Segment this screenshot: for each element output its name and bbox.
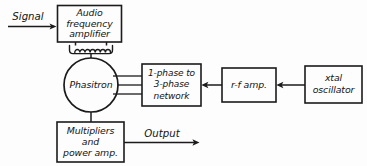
- block-label-line: Phasitron: [69, 79, 112, 90]
- block-label-line: frequency: [66, 18, 113, 29]
- block-label-line: network: [154, 91, 191, 101]
- block-label-line: 3-phase: [154, 79, 190, 89]
- output-label: Output: [144, 128, 180, 139]
- coil-icon: [70, 42, 113, 58]
- block-xtal-oscillator: xtal oscillator: [305, 66, 362, 103]
- rf-amp-to-network-connector: [201, 82, 222, 88]
- block-label-line: amplifier: [69, 28, 111, 39]
- block-audio-frequency-amplifier: Audio frequency amplifier: [58, 6, 122, 43]
- block-label-line: and: [82, 136, 99, 147]
- block-one-phase-to-three-phase-network: 1-phase to 3-phase network: [142, 64, 201, 106]
- signal-label: Signal: [12, 11, 43, 22]
- block-label-line: Audio: [75, 7, 103, 18]
- block-label-line: oscillator: [313, 84, 356, 95]
- block-label-line: Multipliers: [67, 125, 115, 136]
- block-phasitron: Phasitron: [64, 58, 118, 112]
- signal-input-connector: [8, 23, 57, 29]
- block-rf-amplifier: r-f amp.: [222, 68, 276, 102]
- block-diagram: Audio frequency amplifier Phasitron 1-ph…: [0, 0, 367, 166]
- block-label-line: power amp.: [62, 147, 118, 158]
- xtal-to-rf-amp-connector: [276, 82, 305, 88]
- block-label-line: 1-phase to: [148, 68, 196, 78]
- block-label-line: xtal: [324, 72, 343, 83]
- block-label-line: r-f amp.: [231, 79, 267, 90]
- output-connector: [124, 139, 200, 145]
- block-multipliers-and-power-amplifier: Multipliers and power amp.: [57, 122, 124, 162]
